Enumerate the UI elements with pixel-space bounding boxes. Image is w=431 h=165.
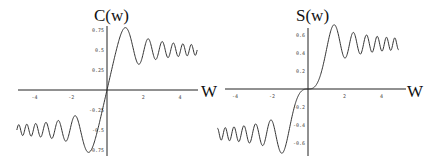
chart-s: S(w) W -4-224 0.60.40.2-0.2-0.4-0.6 (217, 6, 424, 156)
x-tick-label: 2 (343, 93, 346, 99)
fresnel-charts: C(w) W -4-224 0.750.50.25-0.25-0.5-0.75 … (0, 0, 431, 165)
y-tick-label: 0.75 (92, 27, 104, 33)
x-tick-label: 2 (142, 94, 145, 100)
y-tick-label: -0.6 (293, 140, 305, 146)
x-tick-label: -2 (68, 94, 74, 100)
y-tick-label: 0.25 (92, 67, 104, 73)
chart-title: C(w) (94, 6, 129, 25)
y-tick-label: 0.2 (296, 68, 305, 74)
x-tick-label: -4 (232, 93, 238, 99)
chart-title: S(w) (296, 6, 329, 25)
x-axis-label: W (407, 82, 424, 101)
chart-c: C(w) W -4-224 0.750.50.25-0.25-0.5-0.75 (17, 6, 218, 156)
x-tick-label: 4 (380, 93, 383, 99)
y-tick-label: -0.4 (293, 122, 305, 128)
x-tick-label: -2 (269, 93, 275, 99)
y-tick-label: 0.5 (95, 47, 104, 53)
y-tick-label: 0.6 (296, 32, 305, 38)
x-tick-label: -4 (31, 94, 37, 100)
x-axis-label: W (201, 82, 218, 101)
x-tick-label: 4 (179, 94, 182, 100)
y-tick-label: 0.4 (296, 50, 305, 56)
